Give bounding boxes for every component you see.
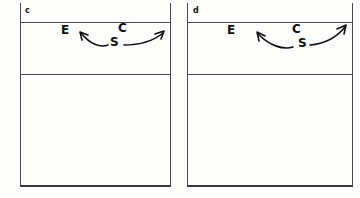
figure-canvas: c E C S d E C S (0, 0, 360, 198)
panel-c-double-headed-curved-arrow (0, 0, 180, 99)
panel-d: d E C S (180, 0, 360, 198)
panel-d-arrow-right-head (337, 25, 346, 34)
panel-c-arrow-left-limb (81, 33, 108, 46)
panel-d-arrow-left-limb (258, 34, 293, 48)
panel-d-arrow-right-limb (310, 27, 345, 45)
panel-c: c E C S (0, 0, 180, 198)
panel-c-bottom-border (20, 185, 171, 187)
panel-d-bottom-border (187, 185, 353, 187)
panel-c-arrow-right-limb (124, 33, 163, 45)
panel-d-double-headed-curved-arrow (180, 0, 360, 99)
